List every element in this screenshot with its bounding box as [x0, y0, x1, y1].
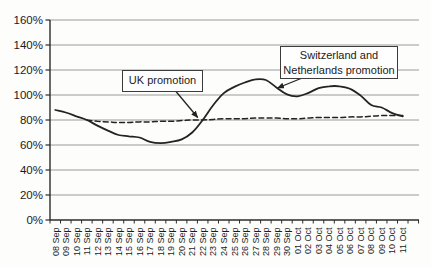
x-tick-label: 27 Sep — [251, 228, 261, 257]
y-tick-label: 40% — [20, 164, 43, 176]
x-tick-label: 19 Sep — [166, 228, 176, 257]
x-tick-label: 28 Sep — [261, 228, 271, 257]
x-tick-label: 18 Sep — [156, 228, 166, 257]
y-tick-label: 160% — [14, 14, 43, 26]
x-tick-label: 22 Sep — [198, 228, 208, 257]
x-tick-label: 05 Oct — [335, 227, 345, 254]
annotation-uk-promotion: UK promotion — [122, 70, 203, 92]
x-tick-label: 12 Sep — [93, 228, 103, 257]
x-tick-label: 25 Sep — [230, 228, 240, 257]
y-tick-label: 80% — [20, 114, 43, 126]
x-tick-label: 20 Sep — [177, 228, 187, 257]
x-tick-label: 08 Oct — [366, 227, 376, 254]
x-tick-label: 14 Sep — [114, 228, 124, 257]
x-tick-label: 21 Sep — [187, 228, 197, 257]
switzerland-netherlands-arrow — [277, 79, 301, 89]
x-tick-label: 01 Oct — [293, 227, 303, 254]
promotion-line-chart: 0%20%40%60%80%100%120%140%160%08 Sep09 S… — [0, 0, 431, 268]
line-chart-canvas: 0%20%40%60%80%100%120%140%160%08 Sep09 S… — [0, 0, 431, 268]
x-tick-label: 23 Sep — [208, 228, 218, 257]
x-tick-label: 29 Sep — [272, 228, 282, 257]
x-tick-label: 16 Sep — [135, 228, 145, 257]
x-tick-label: 03 Oct — [314, 227, 324, 254]
y-tick-label: 100% — [14, 89, 43, 101]
x-tick-label: 13 Sep — [103, 228, 113, 257]
y-tick-label: 140% — [14, 39, 43, 51]
x-tick-label: 24 Sep — [219, 228, 229, 257]
x-tick-label: 10 Oct — [387, 227, 397, 254]
x-tick-label: 04 Oct — [324, 227, 334, 254]
x-tick-label: 11 Oct — [398, 227, 408, 253]
x-tick-label: 07 Oct — [356, 227, 366, 254]
y-tick-label: 120% — [14, 64, 43, 76]
series-line-dashed — [87, 116, 403, 123]
x-tick-label: 09 Sep — [61, 228, 71, 257]
x-tick-label: 06 Oct — [345, 227, 355, 254]
x-tick-label: 10 Sep — [72, 228, 82, 257]
annotation-switzerland-netherlands-promotion: Switzerland and Netherlands promotion — [280, 46, 398, 79]
series-line-solid — [55, 79, 403, 143]
x-tick-label: 15 Sep — [124, 228, 134, 257]
x-tick-label: 08 Sep — [51, 228, 61, 257]
x-tick-label: 11 Sep — [82, 228, 92, 256]
x-tick-label: 09 Oct — [377, 227, 387, 254]
y-tick-label: 60% — [20, 139, 43, 151]
x-tick-label: 26 Sep — [240, 228, 250, 257]
x-tick-label: 30 Sep — [282, 228, 292, 257]
y-tick-label: 20% — [20, 189, 43, 201]
y-tick-label: 0% — [26, 214, 43, 226]
x-tick-label: 17 Sep — [145, 228, 155, 257]
x-tick-label: 02 Oct — [303, 227, 313, 254]
